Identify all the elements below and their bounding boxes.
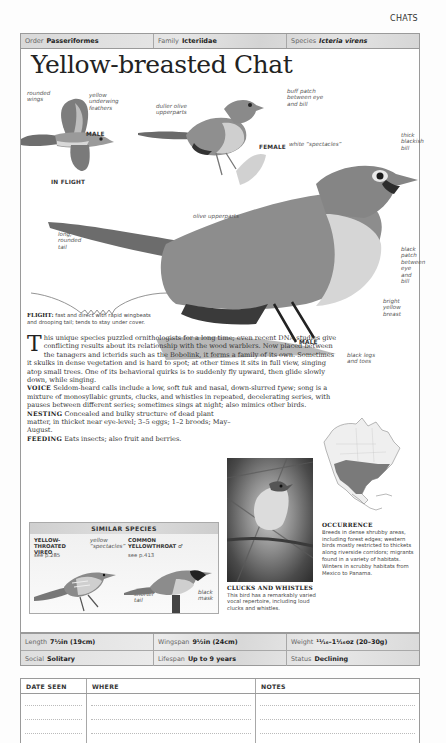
voice-text-2: and nasal, down-slurred (193, 384, 278, 392)
stats-row-2: SocialSolitary LifespanUp to 9 years Sta… (21, 650, 419, 666)
log-body (21, 694, 419, 743)
label-bright-breast: bright yellow breast (383, 298, 407, 317)
status-cell: StatusDeclining (287, 651, 419, 666)
label-olive-upperparts: olive upperparts (193, 213, 239, 219)
occurrence-title: OCCURRENCE (322, 522, 420, 529)
order-cell: OrderPasseriformes (21, 34, 154, 48)
sighting-log-table: DATE SEEN WHERE NOTES (20, 678, 420, 743)
in-flight-sex: MALE (86, 131, 105, 137)
log-header: DATE SEEN WHERE NOTES (21, 679, 419, 694)
vireo-bird-icon (32, 557, 127, 613)
social-cell: SocialSolitary (21, 651, 154, 666)
family-label: Family (158, 37, 179, 45)
label-buff-patch: buff patchbetween eyeand bill (287, 88, 323, 107)
page-title: Yellow-breasted Chat (31, 50, 292, 79)
social-value: Solitary (47, 655, 75, 663)
wingspan-cell: Wingspan9½in (24cm) (154, 634, 287, 650)
photo-caption-text: This bird has a remarkably varied vocal … (227, 592, 316, 611)
length-label: Length (25, 638, 47, 646)
label-thick-bill: thick blackish bill (401, 132, 421, 151)
stats-row-1: Length7½in (19cm) Wingspan9½in (24cm) We… (21, 634, 419, 650)
log-col-notes: NOTES (256, 679, 419, 693)
social-label: Social (25, 655, 44, 663)
yellowthroat-bird-icon (122, 561, 218, 613)
log-notes-field[interactable] (256, 694, 419, 743)
length-value: 7½in (19cm) (50, 638, 95, 646)
male-bird-icon (46, 154, 426, 364)
voice-text: Seldom-heard calls include a low, soft (53, 384, 181, 392)
voice-tuk: tuk (182, 384, 193, 392)
taxonomy-bar: OrderPasseriformes FamilyIcteriidae Spec… (21, 34, 419, 49)
label-rounded-wings: roundedwings (27, 90, 50, 103)
range-map-icon (316, 414, 406, 514)
feeding-label: FEEDING (27, 435, 62, 442)
order-value: Passeriformes (46, 37, 98, 45)
similar-species-header: SIMILAR SPECIES (30, 523, 218, 534)
family-cell: FamilyIcteriidae (154, 34, 287, 48)
species-description: This unique species puzzled ornithologis… (27, 334, 337, 443)
log-where-field[interactable] (87, 694, 256, 743)
stats-table: Length7½in (19cm) Wingspan9½in (24cm) We… (20, 633, 420, 666)
lifespan-label: Lifespan (158, 655, 185, 663)
flight-caption: FLIGHT: fast and direct with rapid wingb… (27, 312, 157, 326)
intro-text: his unique species puzzled ornithologist… (27, 334, 336, 384)
label-black-patch: black patch between eye and bill (401, 246, 421, 284)
species-value: Icteria virens (319, 37, 367, 45)
label-yellow-underwing: yellowunderwingfeathers (89, 92, 119, 111)
log-date-field[interactable] (21, 694, 87, 743)
label-long-tail: long, rounded tail (58, 231, 82, 250)
status-value: Declining (314, 655, 348, 663)
weight-cell: Weight¹¹⁄₁₆–1¹⁄₁₆oz (20–30g) (287, 634, 419, 650)
label-white-spectacles: white “spectacles” (289, 141, 341, 147)
species-page: OrderPasseriformes FamilyIcteriidae Spec… (20, 33, 420, 633)
species-cell: SpeciesIcteria virens (287, 34, 419, 48)
occurrence-text: Breeds in dense shrubby areas, including… (322, 529, 414, 576)
length-cell: Length7½in (19cm) (21, 634, 154, 650)
label-duller-olive: duller oliveupperparts (156, 103, 187, 116)
photo-title: CLUCKS AND WHISTLES (227, 585, 317, 592)
perched-bird-photo-icon (227, 458, 313, 582)
photo-caption: CLUCKS AND WHISTLES This bird has a rema… (227, 585, 317, 611)
log-col-date-seen: DATE SEEN (21, 679, 87, 693)
occurrence-section: OCCURRENCE Breeds in dense shrubby areas… (322, 522, 420, 576)
flight-label: FLIGHT: (27, 312, 54, 318)
voice-label: VOICE (27, 384, 51, 391)
wingspan-value: 9½in (24cm) (192, 638, 237, 646)
label-black-legs: black legs and toes (347, 352, 383, 365)
dropcap: T (27, 335, 42, 353)
female-sex: FEMALE (259, 144, 286, 150)
similar-species-name-yellowthroat: COMMON YELLOWTHROAT ♂ (128, 537, 198, 549)
weight-label: Weight (291, 638, 313, 646)
species-label: Species (291, 37, 316, 45)
status-label: Status (291, 655, 311, 663)
nesting-label: NESTING (27, 410, 62, 417)
order-label: Order (25, 37, 43, 45)
clucks-photo (227, 458, 313, 582)
voice-tyew: tyew (278, 384, 294, 392)
similar-species-panel: SIMILAR SPECIES YELLOW-THROATED VIREO se… (29, 522, 219, 614)
family-value: Icteriidae (182, 37, 217, 45)
running-head: CHATS (390, 14, 418, 23)
log-col-where: WHERE (87, 679, 256, 693)
feeding-text: Eats insects; also fruit and berries. (64, 435, 181, 443)
label-yellow-spectacles: yellow “spectacles” (90, 537, 124, 550)
lifespan-cell: LifespanUp to 9 years (154, 651, 287, 666)
weight-value: ¹¹⁄₁₆–1¹⁄₁₆oz (20–30g) (316, 638, 387, 646)
lifespan-value: Up to 9 years (188, 655, 236, 663)
wingspan-label: Wingspan (158, 638, 189, 646)
similar-species-ref-yellowthroat[interactable]: see p.413 (128, 552, 154, 558)
